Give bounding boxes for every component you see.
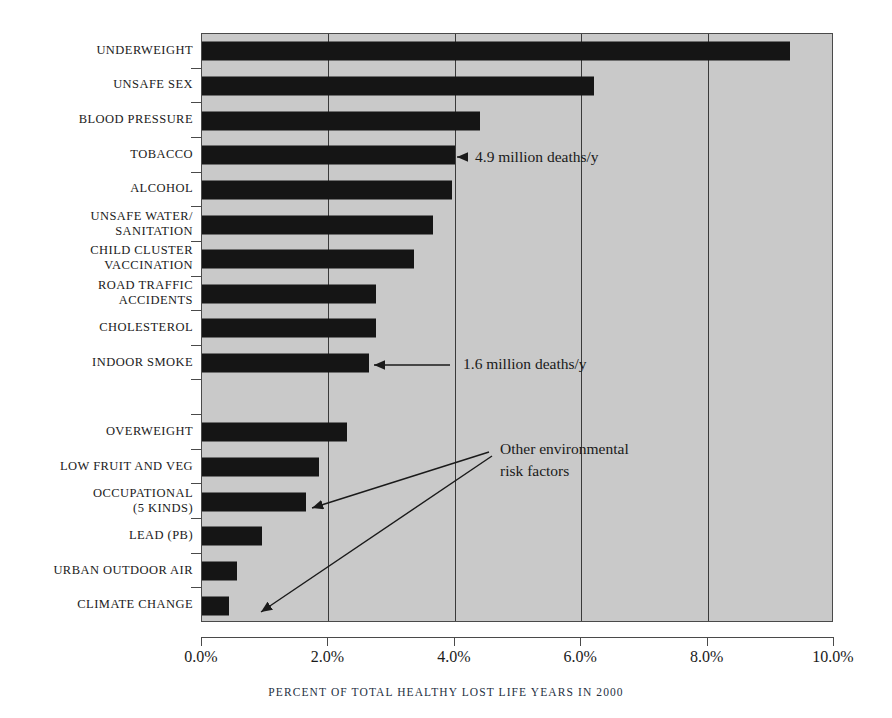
bar-row	[202, 380, 832, 415]
y-axis-label: TOBACCO	[0, 147, 193, 162]
bar-row	[202, 277, 832, 312]
bar-row	[202, 103, 832, 138]
bar	[202, 596, 229, 615]
x-axis-tick-label: 8.0%	[690, 648, 723, 666]
x-axis-tick	[580, 637, 581, 646]
bar-row	[202, 588, 832, 623]
risk-factor-bar-chart: UNDERWEIGHTUNSAFE SEXBLOOD PRESSURETOBAC…	[0, 0, 892, 718]
bar	[202, 527, 262, 546]
bar	[202, 180, 452, 199]
y-axis-label-line: ALCOHOL	[0, 181, 193, 196]
y-axis-label: UNDERWEIGHT	[0, 43, 193, 58]
annotation-other-environmental-line2: risk factors	[500, 460, 629, 482]
bar-row	[202, 34, 832, 69]
x-axis-tick-label: 0.0%	[184, 648, 217, 666]
annotation-indoor-smoke-deaths: 1.6 million deaths/y	[463, 355, 587, 373]
y-axis-label: OCCUPATIONAL(5 KINDS)	[0, 486, 193, 516]
bar	[202, 458, 319, 477]
bar	[202, 250, 414, 269]
annotation-other-environmental-line1: Other environmental	[500, 438, 629, 460]
y-axis-label: UNSAFE SEX	[0, 77, 193, 92]
y-axis-label: CHOLESTEROL	[0, 320, 193, 335]
bar	[202, 284, 376, 303]
x-axis-tick-label: 10.0%	[812, 648, 853, 666]
y-axis-label-line: OCCUPATIONAL	[0, 486, 193, 501]
y-axis-label-line: CLIMATE CHANGE	[0, 597, 193, 612]
y-axis-label: OVERWEIGHT	[0, 424, 193, 439]
bar	[202, 319, 376, 338]
y-axis-label: ROAD TRAFFICACCIDENTS	[0, 278, 193, 308]
bar	[202, 492, 306, 511]
y-axis-label-line: UNSAFE WATER/	[0, 209, 193, 224]
y-axis-label: LOW FRUIT AND VEG	[0, 459, 193, 474]
y-axis-label-line: TOBACCO	[0, 147, 193, 162]
y-axis-label-line: CHILD CLUSTER	[0, 243, 193, 258]
y-axis-label-line: CHOLESTEROL	[0, 320, 193, 335]
y-axis-label-line: VACCINATION	[0, 258, 193, 273]
y-axis-label-line: URBAN OUTDOOR AIR	[0, 563, 193, 578]
bar-row	[202, 554, 832, 589]
y-axis-label: UNSAFE WATER/SANITATION	[0, 209, 193, 239]
y-axis-label-line: UNSAFE SEX	[0, 77, 193, 92]
y-axis-label-line: LEAD (PB)	[0, 528, 193, 543]
bar	[202, 215, 433, 234]
bar-row	[202, 311, 832, 346]
y-axis-labels: UNDERWEIGHTUNSAFE SEXBLOOD PRESSURETOBAC…	[0, 33, 193, 622]
y-axis-label: INDOOR SMOKE	[0, 355, 193, 370]
y-axis-label: CLIMATE CHANGE	[0, 597, 193, 612]
y-axis-label-line: INDOOR SMOKE	[0, 355, 193, 370]
bar-row	[202, 484, 832, 519]
bar-row	[202, 69, 832, 104]
y-axis-label-line: LOW FRUIT AND VEG	[0, 459, 193, 474]
y-axis-label-line: UNDERWEIGHT	[0, 43, 193, 58]
y-axis-label-line: (5 KINDS)	[0, 501, 193, 516]
x-axis-tick	[833, 637, 834, 646]
y-axis-label: BLOOD PRESSURE	[0, 112, 193, 127]
bar	[202, 146, 455, 165]
x-axis-caption: PERCENT OF TOTAL HEALTHY LOST LIFE YEARS…	[0, 686, 892, 698]
bar	[202, 562, 237, 581]
y-axis-label: ALCOHOL	[0, 181, 193, 196]
bar-row	[202, 519, 832, 554]
bar-row	[202, 173, 832, 208]
bar-row	[202, 207, 832, 242]
y-axis-label-line: SANITATION	[0, 224, 193, 239]
x-axis-tick	[201, 637, 202, 646]
x-axis-tick	[327, 637, 328, 646]
bar-row	[202, 242, 832, 277]
x-axis-line	[201, 637, 834, 638]
x-axis-tick-label: 4.0%	[437, 648, 470, 666]
plot-area	[201, 33, 833, 622]
y-axis-label-line: OVERWEIGHT	[0, 424, 193, 439]
x-axis-tick-label: 2.0%	[311, 648, 344, 666]
y-axis-label-line: BLOOD PRESSURE	[0, 112, 193, 127]
y-axis-label: CHILD CLUSTERVACCINATION	[0, 243, 193, 273]
y-axis-label-line: ROAD TRAFFIC	[0, 278, 193, 293]
y-axis-label: LEAD (PB)	[0, 528, 193, 543]
bar	[202, 111, 480, 130]
annotation-other-environmental: Other environmental risk factors	[500, 438, 629, 482]
annotation-tobacco-deaths: 4.9 million deaths/y	[475, 148, 599, 166]
y-axis-label: URBAN OUTDOOR AIR	[0, 563, 193, 578]
bar-series	[202, 34, 832, 621]
bar	[202, 354, 369, 373]
x-axis-tick	[707, 637, 708, 646]
bar	[202, 423, 347, 442]
x-axis-tick	[454, 637, 455, 646]
bar	[202, 76, 594, 95]
bar	[202, 42, 790, 61]
x-axis-tick-label: 6.0%	[564, 648, 597, 666]
y-axis-label-line: ACCIDENTS	[0, 293, 193, 308]
